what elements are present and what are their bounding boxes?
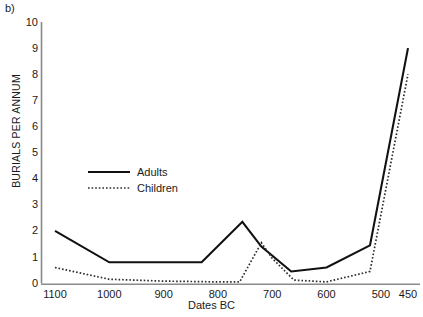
legend-label-adults: Adults bbox=[137, 166, 168, 178]
plot-area bbox=[0, 0, 423, 317]
x-axis-title: Dates BC bbox=[0, 299, 423, 311]
axis-lines bbox=[41, 22, 420, 284]
legend-label-children: Children bbox=[137, 182, 178, 194]
series-children bbox=[55, 74, 408, 282]
legend-swatches bbox=[88, 172, 130, 188]
burials-per-annum-line-chart: b) BURIALS PER ANNUM 012345678910 Adults… bbox=[0, 0, 423, 317]
series-adults bbox=[55, 48, 408, 271]
